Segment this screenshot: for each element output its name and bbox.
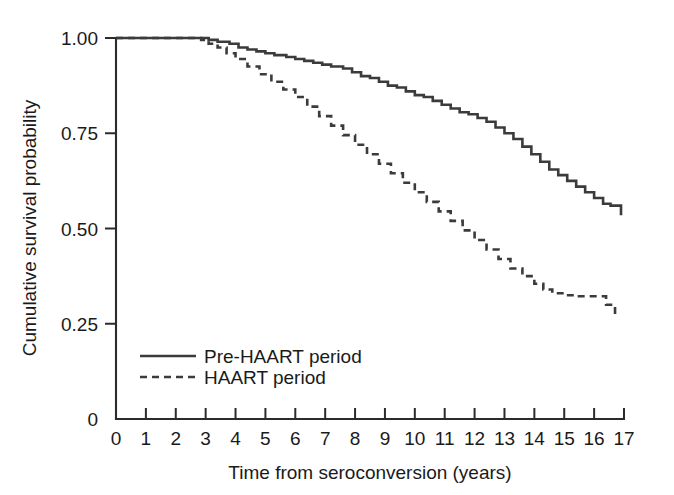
chart-canvas: 00.250.500.751.00 0123456789101112131415… — [0, 0, 674, 495]
y-tick-label: 1.00 — [61, 28, 98, 49]
x-tick-label: 6 — [290, 428, 301, 449]
x-tick-label: 10 — [404, 428, 425, 449]
y-tick-label: 0.50 — [61, 219, 98, 240]
x-tick-label: 7 — [320, 428, 331, 449]
data-series-group — [116, 38, 621, 315]
x-tick-label: 2 — [170, 428, 181, 449]
survival-chart-figure: 00.250.500.751.00 0123456789101112131415… — [0, 0, 674, 495]
axes-group — [116, 38, 624, 419]
x-axis-title: Time from seroconversion (years) — [228, 462, 511, 483]
legend-label-haart: HAART period — [204, 367, 326, 388]
x-tick-label: 11 — [435, 428, 455, 449]
x-tick-label: 14 — [524, 428, 546, 449]
x-tick-label: 5 — [260, 428, 271, 449]
y-tick-label: 0.75 — [61, 123, 98, 144]
x-tick-label: 1 — [141, 428, 152, 449]
x-tick-label: 3 — [200, 428, 211, 449]
y-tick-label: 0.25 — [61, 314, 98, 335]
legend-label-pre-haart: Pre-HAART period — [204, 346, 362, 367]
x-tick-label: 0 — [111, 428, 122, 449]
series-haart-line — [116, 38, 615, 315]
y-axis-title: Cumulative survival probability — [19, 99, 40, 356]
series-pre-haart-line — [116, 38, 621, 215]
x-axis-ticks: 01234567891011121314151617 — [111, 408, 635, 449]
y-axis-ticks: 00.250.500.751.00 — [61, 28, 116, 430]
x-tick-label: 16 — [584, 428, 605, 449]
x-tick-label: 12 — [464, 428, 485, 449]
chart-legend: Pre-HAART period HAART period — [140, 346, 362, 388]
x-tick-label: 15 — [554, 428, 575, 449]
x-tick-label: 8 — [350, 428, 361, 449]
x-tick-label: 17 — [613, 428, 634, 449]
y-tick-label: 0 — [87, 409, 98, 430]
x-tick-label: 4 — [230, 428, 241, 449]
x-tick-label: 9 — [380, 428, 391, 449]
x-tick-label: 13 — [494, 428, 515, 449]
